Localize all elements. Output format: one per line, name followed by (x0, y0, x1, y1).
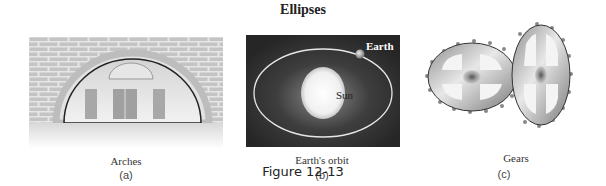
panel-arches (29, 37, 223, 149)
orbit-illustration: Sun Earth (246, 35, 400, 147)
gears-illustration (422, 18, 582, 142)
gear-vertical (512, 22, 573, 128)
gear-horizontal (425, 39, 516, 114)
arch-illustration (29, 37, 223, 149)
earth-label: Earth (366, 40, 394, 52)
panel-earths-orbit: Sun Earth (246, 35, 400, 147)
sun-label: Sun (336, 89, 354, 101)
figure-title: Ellipses (0, 2, 606, 18)
panel-gears (422, 18, 582, 142)
caption-gears: Gears (466, 152, 566, 164)
figure-label: Figure 12-13 (0, 164, 606, 179)
